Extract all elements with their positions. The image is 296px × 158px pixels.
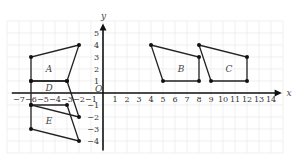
y-tick-label: 2 xyxy=(94,65,99,74)
y-tick-label: −2 xyxy=(87,113,99,122)
vertex-point xyxy=(245,55,249,59)
x-tick-label: −5 xyxy=(37,95,49,104)
x-tick-label: 3 xyxy=(136,95,141,104)
x-tick-label: 2 xyxy=(124,95,129,104)
vertex-point xyxy=(29,103,33,107)
vertex-point xyxy=(65,103,69,107)
x-tick-label: −7 xyxy=(13,95,25,104)
y-axis-arrow-icon xyxy=(100,23,107,30)
shape-label: B xyxy=(177,64,185,74)
x-tick-label: 14 xyxy=(266,95,276,104)
shape-label: D xyxy=(44,83,52,93)
x-tick-label: 8 xyxy=(196,95,201,104)
x-tick-label: 9 xyxy=(208,95,213,104)
shape-label: C xyxy=(226,64,233,74)
x-tick-label: 6 xyxy=(172,95,177,104)
vertex-point xyxy=(77,115,81,119)
y-tick-label: 1 xyxy=(94,77,99,86)
coordinate-plane: xyO −7−6−5−4−3−2−11234567891011121314543… xyxy=(0,0,296,158)
y-tick-label: 3 xyxy=(94,53,99,62)
vertex-point xyxy=(29,79,33,83)
x-tick-label: 10 xyxy=(218,95,228,104)
y-tick-label: −3 xyxy=(87,125,99,134)
vertex-point xyxy=(77,139,81,143)
x-tick-label: 5 xyxy=(160,95,165,104)
vertex-point xyxy=(245,79,249,83)
vertex-point xyxy=(161,79,165,83)
x-tick-label: 1 xyxy=(112,95,117,104)
vertex-point xyxy=(209,79,213,83)
x-axis-label: x xyxy=(287,88,292,98)
vertex-point xyxy=(197,55,201,59)
vertex-point xyxy=(149,43,153,47)
x-tick-label: 11 xyxy=(230,95,240,104)
x-tick-label: −4 xyxy=(49,95,61,104)
vertex-point xyxy=(77,43,81,47)
y-tick-label: 5 xyxy=(94,29,99,38)
y-axis-label: y xyxy=(100,11,107,21)
vertex-point xyxy=(197,43,201,47)
vertex-point xyxy=(29,55,33,59)
vertex-point xyxy=(29,127,33,131)
vertex-point xyxy=(197,79,201,83)
x-tick-label: 12 xyxy=(242,95,252,104)
shape-label: A xyxy=(45,64,53,74)
y-tick-label: 4 xyxy=(94,41,99,50)
y-tick-label: −1 xyxy=(87,101,99,110)
y-tick-label: −4 xyxy=(87,137,99,146)
x-tick-label: 4 xyxy=(148,95,153,104)
x-tick-label: −3 xyxy=(61,95,73,104)
shape-label: E xyxy=(45,116,53,126)
x-tick-label: 7 xyxy=(184,95,189,104)
x-tick-label: 13 xyxy=(254,95,264,104)
vertex-point xyxy=(65,79,69,83)
